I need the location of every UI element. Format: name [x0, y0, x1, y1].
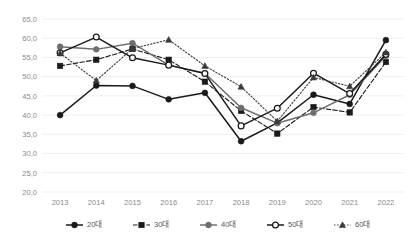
y-axis-tick-label: 20,0 [22, 188, 37, 197]
data-point [311, 110, 317, 116]
y-axis-tick-label: 60,0 [22, 34, 37, 43]
x-axis-tick-label: 2018 [233, 198, 250, 207]
data-point [383, 59, 388, 64]
x-axis-labels-group: 2013201420152016201720182019202020212022 [52, 198, 395, 207]
legend-item-label: 40대 [221, 220, 236, 229]
data-point [238, 105, 244, 111]
legend-marker-icon [206, 222, 212, 228]
data-point [93, 77, 99, 83]
gridlines-group: 20,025,030,035,040,045,050,055,060,065,0 [22, 15, 404, 197]
data-point [130, 55, 136, 61]
legend-item-50대[interactable]: 50대 [267, 220, 303, 229]
y-axis-tick-label: 40,0 [22, 111, 37, 120]
data-point [202, 71, 208, 77]
data-point [202, 63, 208, 69]
data-point [202, 90, 208, 96]
line-chart: 20,025,030,035,040,045,050,055,060,065,0… [0, 0, 412, 245]
data-point [94, 57, 99, 62]
data-point [311, 104, 316, 109]
x-axis-tick-label: 2016 [160, 198, 177, 207]
series-line [60, 37, 386, 126]
legend-item-label: 20대 [87, 220, 102, 229]
legend-item-label: 50대 [288, 220, 303, 229]
legend-item-label: 60대 [355, 220, 370, 229]
y-axis-tick-label: 55,0 [22, 53, 37, 62]
series-50대 [57, 34, 389, 129]
data-point [93, 46, 99, 52]
legend-item-60대[interactable]: 60대 [334, 220, 370, 229]
data-point [238, 123, 244, 129]
x-axis-tick-label: 2019 [269, 198, 286, 207]
data-point [311, 92, 317, 98]
data-point [202, 79, 207, 84]
data-point [166, 62, 172, 68]
data-point [57, 112, 63, 118]
data-point [238, 138, 244, 144]
data-point [130, 83, 136, 89]
legend-item-20대[interactable]: 20대 [66, 220, 102, 229]
data-point [93, 83, 99, 89]
data-point [274, 105, 280, 111]
x-axis-tick-label: 2013 [52, 198, 69, 207]
series-line [60, 40, 386, 122]
data-point [347, 91, 353, 97]
data-point [166, 37, 172, 43]
legend-item-40대[interactable]: 40대 [200, 220, 236, 229]
x-axis-tick-label: 2015 [124, 198, 141, 207]
data-point [166, 96, 172, 102]
chart-legend: 20대30대40대50대60대 [66, 220, 370, 229]
legend-item-30대[interactable]: 30대 [133, 220, 169, 229]
data-point [347, 101, 353, 107]
data-point [57, 44, 63, 50]
x-axis-tick-label: 2022 [377, 198, 394, 207]
x-axis-tick-label: 2017 [196, 198, 213, 207]
x-axis-tick-label: 2021 [341, 198, 358, 207]
legend-item-label: 30대 [154, 220, 169, 229]
y-axis-tick-label: 45,0 [22, 92, 37, 101]
legend-marker-icon [139, 222, 144, 227]
y-axis-tick-label: 35,0 [22, 130, 37, 139]
data-point [347, 110, 352, 115]
data-point [275, 131, 280, 136]
legend-marker-icon [273, 222, 279, 228]
x-axis-tick-label: 2020 [305, 198, 322, 207]
data-point [93, 34, 99, 40]
data-point [383, 37, 389, 43]
data-point [238, 83, 244, 89]
y-axis-tick-label: 25,0 [22, 169, 37, 178]
chart-canvas: 20,025,030,035,040,045,050,055,060,065,0… [0, 0, 412, 245]
y-axis-tick-label: 50,0 [22, 72, 37, 81]
legend-marker-icon [72, 222, 78, 228]
x-axis-tick-label: 2014 [88, 198, 105, 207]
data-point [57, 63, 62, 68]
y-axis-tick-label: 65,0 [22, 15, 37, 24]
y-axis-tick-label: 30,0 [22, 149, 37, 158]
